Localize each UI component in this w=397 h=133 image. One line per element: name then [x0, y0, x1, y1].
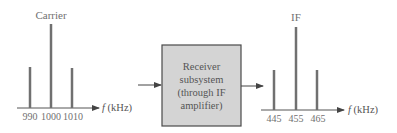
block-text-line-3: (through IF [177, 87, 225, 99]
tick-label-445: 445 [267, 113, 282, 124]
block-text-line-2: subsystem [180, 74, 224, 85]
tick-label-465: 465 [311, 113, 326, 124]
input-axis-label: f (kHz) [102, 102, 133, 114]
frequency-translation-diagram: Carrier 990 1000 1010 f (kHz) Receiver s… [0, 0, 397, 133]
output-axis-label: f (kHz) [348, 104, 379, 116]
tick-label-455: 455 [289, 113, 304, 124]
if-title: IF [291, 11, 301, 23]
carrier-title: Carrier [35, 9, 66, 21]
tick-label-990: 990 [23, 111, 38, 122]
receiver-subsystem-block: Receiver subsystem (through IF amplifier… [162, 45, 241, 126]
block-text-line-1: Receiver [183, 61, 221, 72]
tick-label-1010: 1010 [63, 111, 83, 122]
input-spectrum: Carrier 990 1000 1010 f (kHz) [17, 9, 133, 122]
output-spectrum: IF 445 455 465 f (kHz) [261, 11, 379, 124]
block-text-line-4: amplifier) [181, 100, 223, 112]
receiver-block-rect [162, 45, 241, 126]
tick-label-1000: 1000 [41, 111, 61, 122]
